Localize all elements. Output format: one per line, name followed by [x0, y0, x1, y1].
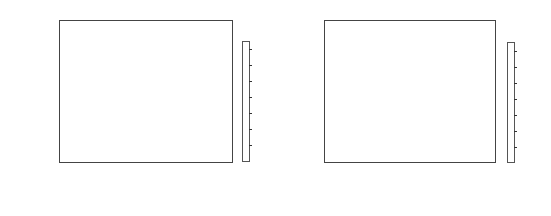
colorbar-tick — [514, 142, 518, 152]
colorbar-tick — [249, 60, 253, 70]
colorbar-tick — [514, 110, 518, 120]
panel-b — [270, 0, 551, 216]
panel-a — [0, 0, 275, 216]
heatmap-plot-a — [59, 20, 233, 163]
colorbar-tick — [249, 76, 253, 86]
heatmap-canvas — [60, 21, 232, 162]
colorbar-tick — [249, 92, 253, 102]
colorbar-tick — [514, 94, 518, 104]
colorbar-tick — [249, 124, 253, 134]
colorbar-tick — [514, 46, 518, 56]
colorbar-tick — [514, 62, 518, 72]
colorbar-tick — [249, 140, 253, 150]
colorbar-tick — [514, 126, 518, 136]
heatmap-canvas — [325, 21, 495, 162]
colorbar-tick — [249, 44, 253, 54]
heatmap-plot-b — [324, 20, 496, 163]
colorbar-tick — [514, 78, 518, 88]
colorbar-tick — [249, 108, 253, 118]
